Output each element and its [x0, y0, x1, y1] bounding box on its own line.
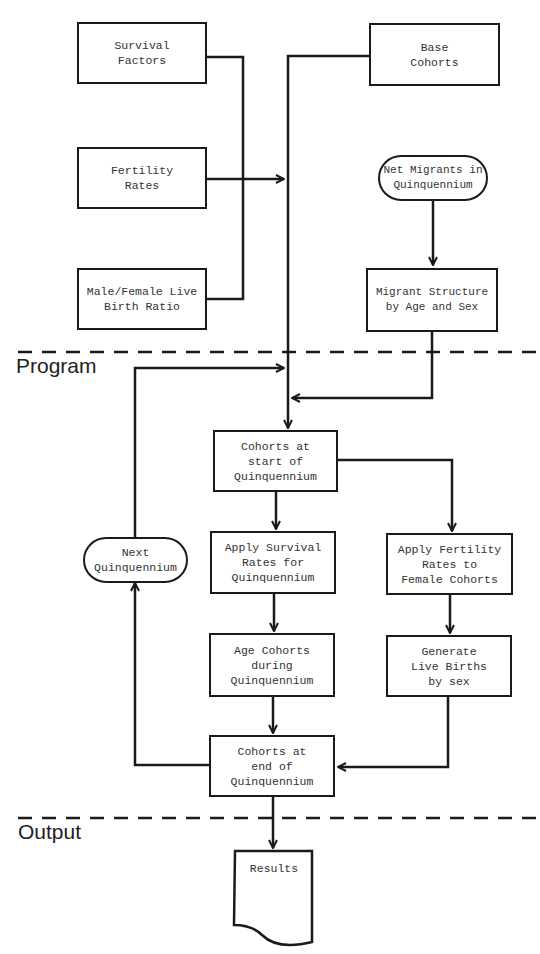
birth-ratio-box: Male/Female Live Birth Ratio	[77, 268, 207, 330]
net-migrants-terminal: Net Migrants in Quinquennium	[378, 155, 488, 201]
migrant-structure-to-trunk	[292, 332, 432, 398]
section-label-output: Output	[18, 820, 81, 844]
cohorts-start-box: Cohorts at start of Quinquennium	[213, 430, 338, 492]
migrant-structure-box: Migrant Structure by Age and Sex	[366, 268, 498, 332]
births-to-end	[338, 697, 448, 767]
apply-survival-box: Apply Survival Rates for Quinquennium	[210, 531, 336, 594]
cohorts-end-box: Cohorts at end of Quinquennium	[209, 735, 335, 797]
base-cohorts-trunk	[288, 56, 369, 428]
start-to-fertility	[338, 460, 452, 531]
age-cohorts-box: Age Cohorts during Quinquennium	[209, 633, 335, 697]
fertility-rates-box: Fertility Rates	[77, 147, 207, 209]
apply-fertility-box: Apply Fertility Rates to Female Cohorts	[386, 533, 513, 595]
end-to-next-loop	[135, 583, 209, 765]
next-quinquennium-terminal: Next Quinquennium	[83, 537, 188, 583]
section-label-program: Program	[16, 354, 97, 378]
base-cohorts-box: Base Cohorts	[369, 23, 500, 86]
results-label: Results	[236, 862, 312, 875]
survival-factors-box: Survival Factors	[77, 22, 207, 84]
generate-births-box: Generate Live Births by sex	[386, 635, 512, 697]
